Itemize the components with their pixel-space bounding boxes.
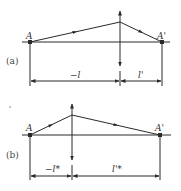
panel-label-b: (b) <box>6 150 19 160</box>
label-object-distance: −l* <box>45 164 60 174</box>
label-A-prime: A' <box>156 31 166 41</box>
ray-refracted <box>120 22 162 42</box>
panel-a: A A' (a) −l l' <box>6 11 170 86</box>
label-A-prime: A' <box>154 123 164 133</box>
ray-incident <box>30 22 120 42</box>
label-image-distance: l' <box>138 70 143 80</box>
label-object-distance: −l <box>70 70 81 80</box>
label-A: A <box>25 31 33 41</box>
lens-diagram: A A' (a) −l l' A A' (b) <box>0 0 181 191</box>
panel-b: A A' (b) −l* l'* <box>6 104 171 180</box>
stray-dot <box>9 106 11 108</box>
panel-label-a: (a) <box>6 56 18 66</box>
ray-refracted <box>72 115 160 135</box>
ray-incident <box>30 115 72 135</box>
label-A: A <box>25 123 33 133</box>
label-image-distance: l'* <box>112 164 122 174</box>
